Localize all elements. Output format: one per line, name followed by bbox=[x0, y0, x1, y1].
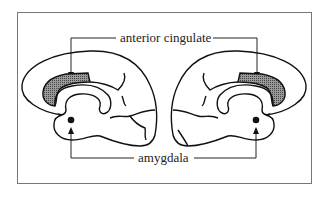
anterior-cingulate-label: anterior cingulate bbox=[118, 31, 213, 45]
arrow-icon bbox=[253, 127, 259, 134]
arrow-icon bbox=[68, 127, 74, 134]
left-hemisphere bbox=[22, 51, 157, 146]
right-hemisphere bbox=[171, 51, 306, 146]
amygdala-label: amygdala bbox=[136, 151, 191, 165]
amygdala-marker bbox=[253, 117, 260, 124]
amygdala-marker bbox=[68, 117, 75, 124]
